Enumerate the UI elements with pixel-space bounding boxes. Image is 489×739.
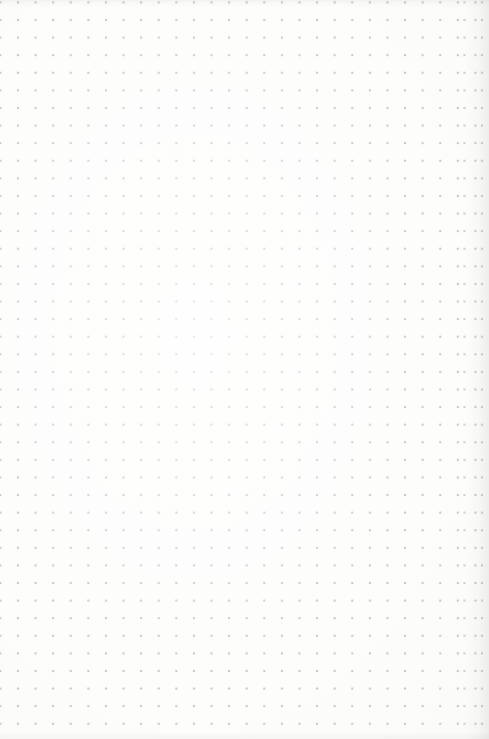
- dot-grid-page: [0, 0, 489, 739]
- dot-grid-right-edge: [463, 0, 489, 739]
- dot-grid-pattern: [0, 0, 489, 739]
